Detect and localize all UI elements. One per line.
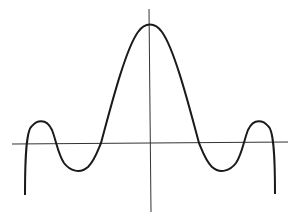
y-axis [149, 9, 151, 212]
function-plot [0, 0, 293, 218]
